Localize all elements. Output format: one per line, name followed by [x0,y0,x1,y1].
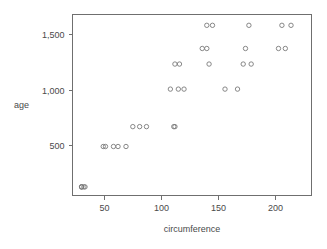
y-tick-label: 1,000 [42,86,65,96]
x-tick-label: 200 [268,203,283,213]
y-tick-label: 1,500 [42,30,65,40]
x-tick-label: 50 [99,203,109,213]
x-tick-label: 150 [211,203,226,213]
y-axis-label: age [14,100,29,110]
x-tick-label: 100 [154,203,169,213]
x-axis-label: circumference [164,224,221,234]
y-tick-label: 500 [49,141,64,151]
scatter-plot-figure: 50100150200 5001,0001,500 circumference … [0,0,327,249]
plot-canvas: 50100150200 5001,0001,500 circumference … [0,0,327,249]
